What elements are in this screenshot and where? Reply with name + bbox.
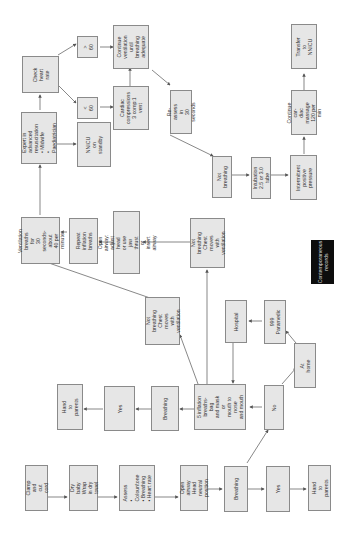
node-dry-baby: Dry baby Wrap in dry towel bbox=[69, 465, 98, 511]
node-label: Hand to parents bbox=[311, 479, 329, 496]
node-open-airway: Open airway Head neutral position bbox=[180, 465, 208, 511]
node-label: Transfer to NNICU bbox=[295, 37, 313, 56]
node-label: Check heart rate bbox=[32, 66, 50, 84]
node-label: Clamp and cut cord bbox=[25, 481, 49, 496]
node-open-airway-adjust: Open airway: adjust head or use jaw thru… bbox=[113, 211, 140, 274]
node-intubation: Intubation 2.5 or 3.0 tube bbox=[251, 157, 271, 199]
node-999-paramedic: 999 Paramedic bbox=[264, 300, 286, 344]
node-repeat-inflation: Repeat inflation breaths bbox=[69, 218, 98, 264]
node-continue-cardiac-massage: Continue car- diac massage 120 per min bbox=[291, 90, 317, 135]
node-intermittent-positive-pressure: Intermittent positive pressure bbox=[290, 155, 317, 200]
node-label: Intermittent positive pressure bbox=[295, 165, 313, 191]
node-not-breathing-chest-moves: Not breathing Chest moves with ventilati… bbox=[145, 297, 180, 345]
node-not-breathing-3: Not breathing bbox=[212, 156, 232, 198]
node-yes-1: Yes bbox=[266, 466, 290, 512]
node-label: Assess • Colour/tone • Breathing • Heart… bbox=[122, 475, 152, 502]
node-not-breathing-chest-moves-2: Not breathing Chest moves with ventilati… bbox=[190, 218, 225, 268]
node-label: Not breathing Chest moves with ventilati… bbox=[190, 231, 226, 254]
node-label: Open airway: adjust head or use jaw thru… bbox=[97, 234, 157, 250]
node-label: > 60 bbox=[82, 42, 94, 52]
node-expert-resuscitation: Expert in advanced resuscitation • Midwi… bbox=[21, 112, 57, 164]
node-transfer-nnicu: Transfer to NNICU bbox=[291, 24, 317, 69]
node-gt-60: > 60 bbox=[77, 36, 98, 58]
node-label: Hand to parents bbox=[61, 398, 79, 415]
node-continue-ventilation: Continue ventilation until breathing ade… bbox=[113, 25, 149, 69]
node-label: Ventilation breaths for 30 seconds-about… bbox=[17, 229, 65, 253]
node-label: Expert in advanced resuscitation • Midwi… bbox=[21, 123, 57, 153]
node-label: Not breathing Chest moves with ventilati… bbox=[145, 309, 181, 332]
node-label: No bbox=[271, 404, 277, 411]
node-label: Breathing bbox=[233, 478, 239, 500]
node-label: Re-assess in 30 seconds bbox=[166, 102, 196, 121]
contemporaneous-records-note: Contemporaneous records bbox=[311, 240, 334, 284]
node-label: 5 inflation breaths-bag and mask or mout… bbox=[196, 395, 244, 420]
node-label: Breathing bbox=[162, 397, 168, 419]
node-label: Repeat inflation breaths bbox=[75, 232, 93, 250]
node-clamp-cut-cord: Clamp and cut cord bbox=[25, 465, 48, 511]
node-label: Cardiac compressions 3 comp:1 vent bbox=[119, 92, 143, 124]
node-label: 999 Paramedic bbox=[269, 310, 281, 335]
note-label: Contemporaneous records bbox=[317, 241, 329, 284]
node-label: Not breathing bbox=[216, 166, 228, 188]
node-5-inflation-breaths: 5 inflation breaths-bag and mask or mout… bbox=[194, 384, 246, 430]
node-hospital: Hospital bbox=[225, 300, 247, 343]
node-cardiac-compressions: Cardiac compressions 3 comp:1 vent bbox=[113, 86, 149, 130]
node-lt-60: < 60 bbox=[77, 97, 98, 119]
node-label: At home bbox=[299, 359, 311, 372]
node-at-home: At home bbox=[294, 343, 316, 388]
node-label: Open airway Head neutral position bbox=[179, 479, 209, 497]
node-hand-to-parents-1: Hand to parents bbox=[308, 465, 331, 511]
node-label: Intubation 2.5 or 3.0 tube bbox=[252, 167, 270, 190]
node-yes-2: Yes bbox=[104, 386, 135, 431]
node-label: Continue ventilation until breathing ade… bbox=[116, 35, 146, 58]
node-reassess-30s: Re-assess in 30 seconds bbox=[170, 90, 192, 134]
node-breathing-1: Breathing bbox=[224, 466, 248, 512]
node-check-heart-rate: Check heart rate bbox=[22, 56, 59, 93]
node-label: Hospital bbox=[233, 312, 239, 331]
node-label: Yes bbox=[117, 404, 123, 412]
node-label: Dry baby Wrap in dry towel bbox=[69, 481, 99, 495]
node-label: Yes bbox=[275, 485, 281, 493]
node-label: Continue car- diac massage 120 per min bbox=[286, 102, 322, 123]
node-ventilation-breaths: Ventilation breaths for 30 seconds-about… bbox=[21, 217, 60, 264]
node-assess: Assess • Colour/tone • Breathing • Heart… bbox=[119, 465, 155, 511]
node-no: No bbox=[264, 385, 284, 430]
node-label: NNICU on standby bbox=[85, 135, 103, 153]
node-label: < 60 bbox=[82, 103, 94, 113]
node-breathing-2: Breathing bbox=[151, 386, 179, 431]
node-hand-to-parents-2: Hand to parents bbox=[57, 384, 83, 430]
node-nnicu-standby: NNICU on standby bbox=[77, 122, 111, 167]
